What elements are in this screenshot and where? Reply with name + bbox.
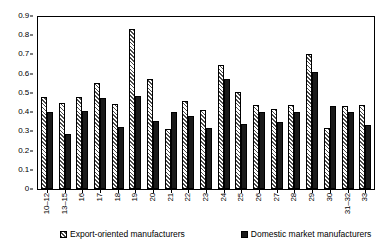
x-axis-tick: 27 xyxy=(268,190,286,232)
x-axis-tick-label: 33 xyxy=(361,193,369,202)
x-axis-tick-label: 28 xyxy=(290,193,298,202)
bar-domestic xyxy=(294,112,300,189)
x-axis-tick: 21 xyxy=(162,190,180,232)
bar-group xyxy=(56,16,74,189)
bar-domestic xyxy=(65,134,71,189)
bar-group xyxy=(38,16,56,189)
bar-domestic xyxy=(330,106,336,189)
bar-domestic xyxy=(241,124,247,189)
y-axis-tick-label: 0.1 xyxy=(18,166,29,174)
bar-group xyxy=(250,16,268,189)
chart-legend: Export-oriented manufacturers Domestic m… xyxy=(38,229,374,239)
bar-group xyxy=(73,16,91,189)
x-axis-tick: 13–15 xyxy=(56,190,74,232)
x-axis: 10–1213–15161718192021222324252627282930… xyxy=(38,190,374,232)
x-axis-tick-label: 31–32 xyxy=(344,193,352,214)
bar-domestic xyxy=(82,111,88,189)
x-axis-tick-label: 27 xyxy=(273,193,281,202)
x-axis-tick-label: 16 xyxy=(78,193,86,202)
x-axis-tick: 30 xyxy=(321,190,339,232)
y-axis-tick-mark xyxy=(30,16,33,17)
y-axis-tick-label: 0.8 xyxy=(18,31,29,39)
x-axis-tick: 33 xyxy=(356,190,374,232)
bar-group xyxy=(144,16,162,189)
bar-group xyxy=(286,16,304,189)
x-axis-tick: 31–32 xyxy=(339,190,357,232)
bar-domestic xyxy=(47,112,53,189)
bar-group xyxy=(197,16,215,189)
x-axis-tick: 18 xyxy=(109,190,127,232)
bar-group xyxy=(126,16,144,189)
y-axis-tick-mark xyxy=(30,92,33,93)
y-axis-tick-label: 0.4 xyxy=(18,108,29,116)
x-axis-tick-label: 20 xyxy=(149,193,157,202)
x-axis-tick-label: 24 xyxy=(220,193,228,202)
bar-group xyxy=(91,16,109,189)
x-axis-tick-label: 10–12 xyxy=(43,193,51,214)
bar-domestic xyxy=(171,112,177,189)
y-axis-tick-label: 0.5 xyxy=(18,89,29,97)
legend-item-domestic: Domestic market manufacturers xyxy=(241,229,371,239)
bar-domestic xyxy=(100,98,106,189)
x-axis-tick: 22 xyxy=(180,190,198,232)
x-axis-tick: 28 xyxy=(286,190,304,232)
x-axis-tick-label: 23 xyxy=(202,193,210,202)
legend-swatch-export-icon xyxy=(60,231,67,238)
bar-group xyxy=(303,16,321,189)
y-axis-tick-mark xyxy=(30,54,33,55)
y-axis-tick-mark xyxy=(30,169,33,170)
x-axis-tick: 10–12 xyxy=(38,190,56,232)
legend-swatch-domestic-icon xyxy=(241,231,248,238)
y-axis-tick-mark xyxy=(30,150,33,151)
legend-item-export: Export-oriented manufacturers xyxy=(60,229,185,239)
x-axis-tick: 29 xyxy=(303,190,321,232)
bar-group xyxy=(215,16,233,189)
legend-label-export: Export-oriented manufacturers xyxy=(70,229,185,239)
y-axis-tick-mark xyxy=(30,73,33,74)
bar-domestic xyxy=(153,121,159,189)
x-axis-tick-label: 13–15 xyxy=(61,193,69,214)
bar-group xyxy=(162,16,180,189)
bar-domestic xyxy=(206,128,212,190)
bar-domestic xyxy=(224,79,230,189)
x-axis-tick: 19 xyxy=(126,190,144,232)
bar-chart: 0.90.80.70.60.50.40.30.20.10 10–1213–151… xyxy=(0,0,383,248)
x-axis-tick: 25 xyxy=(233,190,251,232)
x-axis-tick: 26 xyxy=(250,190,268,232)
bar-domestic xyxy=(135,96,141,189)
bar-group xyxy=(180,16,198,189)
x-axis-tick: 23 xyxy=(197,190,215,232)
x-axis-tick: 24 xyxy=(215,190,233,232)
bar-group xyxy=(356,16,374,189)
y-axis-tick-label: 0.7 xyxy=(18,50,29,58)
y-axis-tick-mark xyxy=(30,112,33,113)
bar-group xyxy=(339,16,357,189)
y-axis-tick-label: 0 xyxy=(25,185,29,193)
bar-domestic xyxy=(312,72,318,189)
x-axis-tick-label: 19 xyxy=(131,193,139,202)
bar-domestic xyxy=(118,127,124,189)
bar-group xyxy=(109,16,127,189)
x-axis-tick-label: 25 xyxy=(237,193,245,202)
x-axis-tick-label: 26 xyxy=(255,193,263,202)
y-axis-tick-label: 0.6 xyxy=(18,70,29,78)
y-axis-tick-mark xyxy=(30,35,33,36)
bar-domestic xyxy=(259,112,265,189)
y-axis-tick-label: 0.2 xyxy=(18,147,29,155)
x-axis-tick: 17 xyxy=(91,190,109,232)
x-axis-tick-label: 29 xyxy=(308,193,316,202)
bar-domestic xyxy=(277,122,283,189)
bar-group xyxy=(233,16,251,189)
x-axis-tick: 20 xyxy=(144,190,162,232)
bar-group xyxy=(268,16,286,189)
y-axis-tick-mark xyxy=(30,189,33,190)
legend-label-domestic: Domestic market manufacturers xyxy=(251,229,371,239)
x-axis-tick-label: 30 xyxy=(326,193,334,202)
bar-domestic xyxy=(348,112,354,189)
x-axis-tick-label: 17 xyxy=(96,193,104,202)
y-axis-tick-label: 0.3 xyxy=(18,127,29,135)
x-axis-tick-label: 21 xyxy=(167,193,175,202)
x-axis-tick-label: 18 xyxy=(114,193,122,202)
bar-domestic xyxy=(188,116,194,189)
bars-container xyxy=(38,16,374,189)
